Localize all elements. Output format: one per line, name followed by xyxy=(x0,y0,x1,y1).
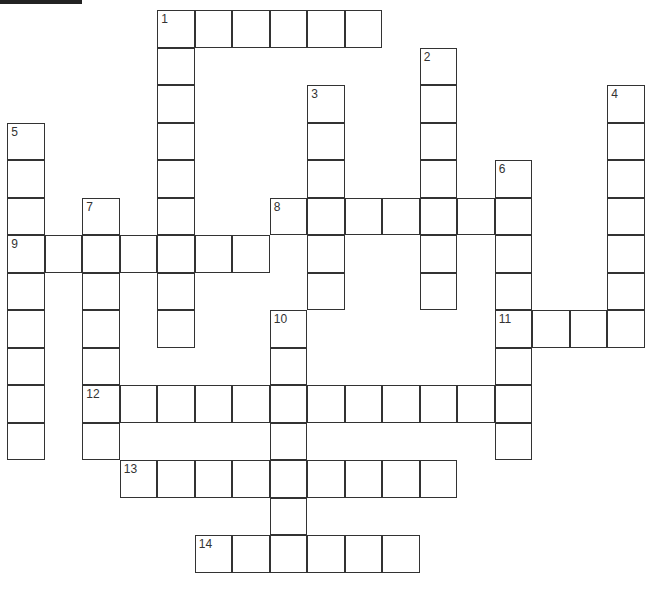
crossword-cell[interactable] xyxy=(82,235,120,273)
crossword-cell[interactable] xyxy=(157,48,195,86)
crossword-cell[interactable] xyxy=(232,235,270,273)
crossword-cell[interactable] xyxy=(232,10,270,48)
crossword-cell[interactable] xyxy=(495,273,533,311)
crossword-cell[interactable] xyxy=(345,198,383,236)
crossword-cell[interactable] xyxy=(420,123,458,161)
crossword-cell[interactable] xyxy=(307,160,345,198)
crossword-cell[interactable] xyxy=(307,460,345,498)
crossword-cell[interactable] xyxy=(345,535,383,573)
crossword-cell[interactable] xyxy=(120,385,158,423)
crossword-cell[interactable] xyxy=(195,385,233,423)
crossword-cell[interactable] xyxy=(495,423,533,461)
crossword-cell[interactable]: 8 xyxy=(270,198,308,236)
crossword-cell[interactable] xyxy=(382,535,420,573)
crossword-cell[interactable] xyxy=(232,460,270,498)
crossword-cell[interactable] xyxy=(532,310,570,348)
crossword-cell[interactable] xyxy=(270,460,308,498)
crossword-cell[interactable] xyxy=(420,198,458,236)
crossword-cell[interactable] xyxy=(232,535,270,573)
crossword-cell[interactable]: 14 xyxy=(195,535,233,573)
crossword-cell[interactable] xyxy=(570,310,608,348)
crossword-cell[interactable]: 9 xyxy=(7,235,45,273)
crossword-cell[interactable]: 2 xyxy=(420,48,458,86)
crossword-cell[interactable] xyxy=(7,348,45,386)
crossword-cell[interactable] xyxy=(7,273,45,311)
crossword-cell[interactable]: 10 xyxy=(270,310,308,348)
crossword-cell[interactable] xyxy=(157,273,195,311)
crossword-cell[interactable] xyxy=(420,460,458,498)
crossword-cell[interactable]: 5 xyxy=(7,123,45,161)
crossword-cell[interactable]: 3 xyxy=(307,85,345,123)
crossword-cell[interactable] xyxy=(82,348,120,386)
crossword-cell[interactable] xyxy=(420,385,458,423)
crossword-cell[interactable] xyxy=(607,160,645,198)
crossword-cell[interactable] xyxy=(82,310,120,348)
crossword-cell[interactable] xyxy=(7,385,45,423)
crossword-cell[interactable] xyxy=(607,273,645,311)
crossword-cell[interactable] xyxy=(270,498,308,536)
crossword-cell[interactable] xyxy=(7,310,45,348)
crossword-cell[interactable] xyxy=(607,235,645,273)
crossword-cell[interactable] xyxy=(307,385,345,423)
crossword-cell[interactable]: 6 xyxy=(495,160,533,198)
crossword-cell[interactable] xyxy=(307,198,345,236)
crossword-cell[interactable] xyxy=(457,198,495,236)
crossword-cell[interactable] xyxy=(157,85,195,123)
crossword-cell[interactable] xyxy=(157,198,195,236)
crossword-cell[interactable] xyxy=(270,385,308,423)
crossword-cell[interactable] xyxy=(157,310,195,348)
crossword-cell[interactable] xyxy=(457,385,495,423)
crossword-cell[interactable]: 13 xyxy=(120,460,158,498)
crossword-cell[interactable] xyxy=(270,348,308,386)
crossword-cell[interactable]: 7 xyxy=(82,198,120,236)
crossword-cell[interactable] xyxy=(82,423,120,461)
crossword-cell[interactable] xyxy=(345,460,383,498)
crossword-cell[interactable] xyxy=(270,535,308,573)
crossword-cell[interactable] xyxy=(195,10,233,48)
crossword-cell[interactable] xyxy=(307,123,345,161)
crossword-cell[interactable] xyxy=(495,385,533,423)
crossword-cell[interactable] xyxy=(120,235,158,273)
crossword-cell[interactable] xyxy=(607,310,645,348)
crossword-cell[interactable] xyxy=(495,198,533,236)
crossword-cell[interactable] xyxy=(82,273,120,311)
crossword-cell[interactable] xyxy=(7,160,45,198)
crossword-cell[interactable] xyxy=(420,160,458,198)
crossword-cell[interactable]: 12 xyxy=(82,385,120,423)
crossword-cell[interactable] xyxy=(157,160,195,198)
crossword-cell[interactable] xyxy=(607,198,645,236)
crossword-cell[interactable] xyxy=(270,423,308,461)
crossword-cell[interactable] xyxy=(382,460,420,498)
crossword-cell[interactable] xyxy=(270,10,308,48)
crossword-cell[interactable] xyxy=(7,423,45,461)
clue-number: 10 xyxy=(274,313,287,325)
clue-number: 3 xyxy=(311,88,318,100)
crossword-cell[interactable]: 11 xyxy=(495,310,533,348)
crossword-cell[interactable] xyxy=(195,235,233,273)
crossword-cell[interactable] xyxy=(345,385,383,423)
clue-number: 7 xyxy=(86,201,93,213)
crossword-cell[interactable] xyxy=(607,123,645,161)
crossword-cell[interactable] xyxy=(307,10,345,48)
crossword-cell[interactable]: 4 xyxy=(607,85,645,123)
crossword-cell[interactable] xyxy=(307,235,345,273)
crossword-cell[interactable] xyxy=(157,460,195,498)
crossword-cell[interactable] xyxy=(382,385,420,423)
crossword-cell[interactable] xyxy=(157,123,195,161)
crossword-cell[interactable] xyxy=(307,273,345,311)
crossword-cell[interactable] xyxy=(307,535,345,573)
crossword-cell[interactable] xyxy=(157,235,195,273)
crossword-cell[interactable] xyxy=(420,235,458,273)
crossword-cell[interactable] xyxy=(232,385,270,423)
crossword-cell[interactable] xyxy=(157,385,195,423)
crossword-cell[interactable] xyxy=(420,273,458,311)
crossword-cell[interactable] xyxy=(495,235,533,273)
crossword-cell[interactable] xyxy=(345,10,383,48)
crossword-cell[interactable] xyxy=(420,85,458,123)
crossword-cell[interactable] xyxy=(45,235,83,273)
crossword-cell[interactable] xyxy=(195,460,233,498)
crossword-cell[interactable]: 1 xyxy=(157,10,195,48)
crossword-cell[interactable] xyxy=(382,198,420,236)
crossword-cell[interactable] xyxy=(495,348,533,386)
crossword-cell[interactable] xyxy=(7,198,45,236)
